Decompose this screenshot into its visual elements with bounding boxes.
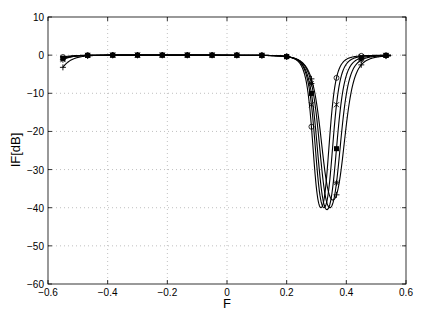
y-tick-label: −60 (27, 279, 44, 290)
x-axis-label: F (223, 296, 231, 311)
y-axis-ticks: 100−10−20−30−40−50−60 (27, 12, 406, 290)
marker-s-icon (334, 146, 339, 151)
y-tick-label: −20 (27, 126, 44, 137)
marker-*-icon (333, 180, 339, 186)
marker-s-icon (309, 91, 314, 96)
y-tick-label: 10 (33, 12, 45, 23)
plot-markers (60, 52, 389, 198)
plot-curves (63, 55, 391, 209)
x-tick-label: 0.4 (339, 287, 353, 298)
marker-*-icon (60, 57, 66, 63)
x-tick-label: −0.2 (157, 287, 177, 298)
x-tick-label: −0.4 (98, 287, 118, 298)
y-tick-label: −30 (27, 165, 44, 176)
chart: −0.6−0.4−0.200.20.40.6 100−10−20−30−40−5… (0, 0, 425, 318)
y-tick-label: 0 (38, 50, 44, 61)
y-axis-label: IF[dB] (8, 133, 23, 168)
y-tick-label: −40 (27, 203, 44, 214)
x-tick-label: 0.6 (399, 287, 413, 298)
y-tick-label: −50 (27, 241, 44, 252)
x-tick-label: 0.2 (280, 287, 294, 298)
y-tick-label: −10 (27, 88, 44, 99)
